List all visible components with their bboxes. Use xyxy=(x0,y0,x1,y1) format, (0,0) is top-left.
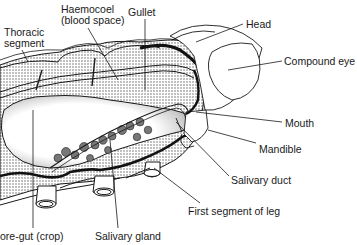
label-thoracic-segment: Thoracic segment xyxy=(4,27,44,49)
label-fore-gut-crop: ore-gut (crop) xyxy=(0,231,64,242)
label-first-segment-of-leg: First segment of leg xyxy=(188,206,280,217)
label-mandible: Mandible xyxy=(259,144,302,155)
label-salivary-duct: Salivary duct xyxy=(231,175,291,186)
label-salivary-gland: Salivary gland xyxy=(95,231,161,242)
label-compound-eye: Compound eye xyxy=(284,56,355,67)
label-mouth: Mouth xyxy=(285,118,314,129)
label-head: Head xyxy=(246,19,271,30)
label-haemocoel: Haemocoel (blood space) xyxy=(61,4,125,26)
label-gullet: Gullet xyxy=(128,7,155,18)
